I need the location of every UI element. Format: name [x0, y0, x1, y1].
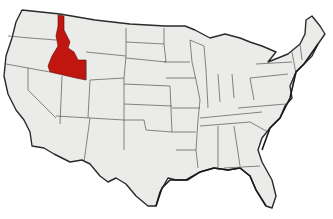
us-map-svg [0, 0, 333, 219]
us-map [0, 0, 333, 219]
